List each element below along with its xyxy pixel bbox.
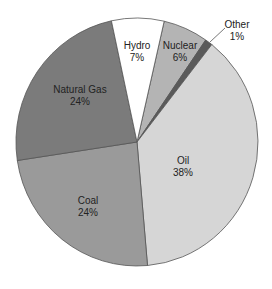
label-oil-pct: 38% [173, 167, 193, 178]
label-coal-pct: 24% [78, 207, 98, 218]
label-hydro-name: Hydro [124, 40, 151, 51]
pie-chart: Nuclear 6% Other 1% Oil 38% Coal 24% Nat… [0, 0, 272, 289]
label-natural-gas-pct: 24% [70, 96, 90, 107]
other-leader-line [210, 28, 225, 42]
label-oil-name: Oil [177, 155, 189, 166]
label-nuclear-pct: 6% [173, 52, 188, 63]
label-other-pct: 1% [230, 31, 245, 42]
label-coal-name: Coal [78, 195, 99, 206]
label-hydro-pct: 7% [130, 52, 145, 63]
label-nuclear-name: Nuclear [163, 40, 198, 51]
label-other-name: Other [224, 19, 250, 30]
label-natural-gas-name: Natural Gas [53, 84, 106, 95]
